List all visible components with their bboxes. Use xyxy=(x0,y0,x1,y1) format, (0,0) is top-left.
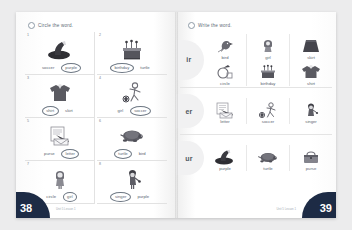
option-b[interactable]: purple xyxy=(63,64,79,71)
skirt-icon xyxy=(298,37,324,54)
option-b[interactable]: purple xyxy=(135,193,151,200)
question-item[interactable]: 3 shirt skirt xyxy=(25,75,95,118)
word-cell[interactable]: purse xyxy=(290,145,332,171)
sound-bubble: er xyxy=(176,94,204,128)
question-item[interactable]: 8 singer pur xyxy=(97,161,167,204)
option-a[interactable]: girl xyxy=(116,107,126,114)
question-number: 3 xyxy=(27,76,29,80)
purse-icon xyxy=(298,149,324,166)
option-a[interactable]: turtle xyxy=(116,150,129,157)
turtle-icon xyxy=(255,149,281,166)
option-b[interactable]: skirt xyxy=(63,107,75,114)
word-cell[interactable]: girl xyxy=(247,34,290,60)
birthday-cake-icon xyxy=(255,63,281,80)
left-instruction-text: Circle the word. xyxy=(38,23,73,28)
question-item[interactable]: 2 xyxy=(97,32,167,75)
option-b[interactable]: soccer xyxy=(132,107,148,114)
word-cell[interactable]: turtle xyxy=(247,145,290,171)
sound-label: ur xyxy=(185,155,193,162)
word-row: letter xyxy=(204,98,332,124)
question-number: 2 xyxy=(99,33,101,37)
word-row: circle xyxy=(204,60,332,86)
circle-icon xyxy=(212,63,238,80)
question-item[interactable]: 1 soccer purple xyxy=(25,32,95,75)
book-spread: Circle the word. 1 soccer pu xyxy=(16,12,336,218)
question-item[interactable]: 6 turtle bir xyxy=(97,118,167,161)
word-row: bird girl xyxy=(204,34,332,60)
word-cell[interactable]: bird xyxy=(204,34,247,60)
option-a[interactable]: soccer xyxy=(40,64,56,71)
right-page-footnote: Unit 5 Lesson 1 xyxy=(277,207,296,211)
bullet-icon xyxy=(28,22,35,29)
letter-icon xyxy=(43,124,77,148)
word-label: shirt xyxy=(307,81,315,86)
word-label: singer xyxy=(305,119,316,124)
word-rows: bird girl xyxy=(204,34,332,86)
sound-bubble: ur xyxy=(176,141,204,175)
bullet-icon xyxy=(188,22,195,29)
question-number: 6 xyxy=(99,119,101,123)
word-rows: letter xyxy=(204,98,332,124)
word-label: circle xyxy=(220,81,230,86)
left-page-footnote: Unit 5 Lesson 1 xyxy=(56,207,75,211)
girl-icon xyxy=(255,37,281,54)
word-label: purple xyxy=(219,166,231,171)
birthday-cake-icon xyxy=(115,38,149,62)
question-number: 4 xyxy=(99,76,101,80)
word-label: soccer xyxy=(262,119,274,124)
option-b[interactable]: girl xyxy=(65,193,75,200)
word-cell[interactable]: purple xyxy=(204,145,247,171)
right-page-number-corner: 39 xyxy=(302,192,336,218)
word-label: purse xyxy=(306,166,316,171)
right-page: Write the word. ir xyxy=(176,12,336,218)
option-a[interactable]: singer xyxy=(113,193,128,200)
option-a[interactable]: purse xyxy=(42,150,56,157)
shirt-icon xyxy=(43,81,77,105)
question-options: turtle bird xyxy=(116,149,147,158)
word-cell[interactable]: shirt xyxy=(290,60,332,86)
left-page-number: 38 xyxy=(20,203,32,218)
option-a[interactable]: shirt xyxy=(44,107,56,114)
question-options: singer purple xyxy=(113,192,151,201)
sound-label: ir xyxy=(186,56,191,63)
purple-hat-icon xyxy=(43,38,77,62)
question-options: birthday turtle xyxy=(112,63,151,72)
question-number: 7 xyxy=(27,162,29,166)
word-label: birthday xyxy=(261,81,276,86)
word-cell[interactable]: singer xyxy=(290,98,332,124)
left-page-number-corner: 38 xyxy=(16,192,50,218)
singer-icon xyxy=(115,167,149,191)
question-item[interactable]: 5 purse lett xyxy=(25,118,95,161)
sound-section-er: er xyxy=(180,88,332,135)
right-page-number: 39 xyxy=(320,203,332,218)
question-options: soccer purple xyxy=(40,63,79,72)
write-the-word-sections: ir xyxy=(180,32,332,181)
girl-icon xyxy=(43,167,77,191)
word-label: turtle xyxy=(263,166,272,171)
word-row: purple xyxy=(204,145,332,171)
option-b[interactable]: turtle xyxy=(138,64,151,71)
question-item[interactable]: 4 girl soccer xyxy=(97,75,167,118)
word-cell[interactable]: skirt xyxy=(290,34,332,60)
word-cell[interactable]: circle xyxy=(204,60,247,86)
bird-icon xyxy=(212,37,238,54)
soccer-player-icon xyxy=(115,81,149,105)
question-options: shirt skirt xyxy=(44,106,75,115)
word-label: letter xyxy=(220,119,229,124)
option-b[interactable]: letter xyxy=(64,150,77,157)
singer-icon xyxy=(298,102,324,119)
word-rows: purple xyxy=(204,145,332,171)
word-cell[interactable]: soccer xyxy=(247,98,290,124)
right-page-instruction: Write the word. xyxy=(188,22,232,29)
soccer-player-icon xyxy=(255,102,281,119)
shirt-icon xyxy=(298,63,324,80)
sound-label: er xyxy=(185,108,192,115)
option-b[interactable]: bird xyxy=(137,150,148,157)
sound-section-ur: ur xyxy=(180,135,332,181)
word-cell[interactable]: letter xyxy=(204,98,247,124)
left-page: Circle the word. 1 soccer pu xyxy=(16,12,176,218)
letter-icon xyxy=(212,102,238,119)
word-cell[interactable]: birthday xyxy=(247,60,290,86)
option-a[interactable]: birthday xyxy=(112,64,131,71)
left-page-instruction: Circle the word. xyxy=(28,22,73,29)
